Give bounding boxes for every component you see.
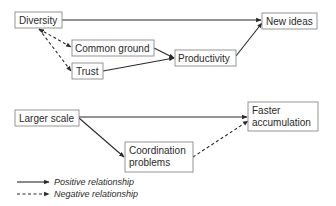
node-faster-accumulation: Faster accumulation xyxy=(248,102,318,131)
legend-negative-label: Negative relationship xyxy=(54,189,138,199)
legend-positive-label: Positive relationship xyxy=(54,177,134,187)
node-trust: Trust xyxy=(72,63,103,79)
edge-productivity-new-ideas xyxy=(236,23,262,56)
node-label: Common ground xyxy=(75,43,149,54)
node-common-ground: Common ground xyxy=(72,40,154,56)
node-label-line1: Faster xyxy=(252,105,281,116)
node-label: Diversity xyxy=(19,15,57,26)
node-label-line2: problems xyxy=(129,157,170,168)
legend: Positive relationship Negative relations… xyxy=(17,177,138,199)
edge-diversity-trust xyxy=(39,29,71,71)
diagram-canvas: Diversity Common ground Trust Productivi… xyxy=(0,0,336,206)
node-label: Larger scale xyxy=(19,113,74,124)
node-label: Productivity xyxy=(178,53,230,64)
node-new-ideas: New ideas xyxy=(262,13,317,29)
edge-common-ground-productivity xyxy=(154,48,174,58)
node-productivity: Productivity xyxy=(175,50,236,66)
node-label-line1: Coordination xyxy=(129,145,186,156)
node-larger-scale: Larger scale xyxy=(15,110,79,126)
edge-diversity-common-ground xyxy=(39,29,71,47)
edge-larger-scale-coordination xyxy=(79,118,124,157)
node-label-line2: accumulation xyxy=(252,117,311,128)
node-diversity: Diversity xyxy=(15,12,62,28)
node-label: Trust xyxy=(76,66,99,77)
edge-trust-productivity xyxy=(103,58,174,71)
node-label: New ideas xyxy=(266,16,313,27)
edge-coordination-faster-accumulation xyxy=(193,121,248,157)
node-coordination-problems: Coordination problems xyxy=(125,142,193,172)
